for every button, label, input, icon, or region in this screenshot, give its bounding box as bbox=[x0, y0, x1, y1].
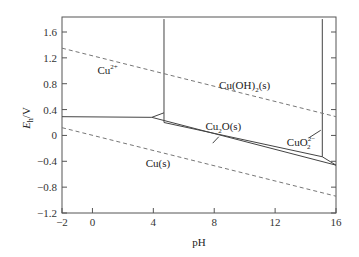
y-tick-label: 0 bbox=[52, 129, 58, 141]
x-tick-label: 8 bbox=[211, 216, 217, 228]
pourbaix-diagram: −20481216 −1.2−0.8−0.400.40.81.21.6 Cu2+… bbox=[0, 0, 359, 257]
y-tick-label: 0.8 bbox=[43, 78, 57, 90]
x-tick-label: 4 bbox=[151, 216, 157, 228]
region-label-cus: Cu(s) bbox=[146, 157, 171, 170]
y-axis-title-unit: /V bbox=[20, 107, 32, 118]
x-axis-ticks: −20481216 bbox=[56, 208, 342, 228]
region-label-cuo2: CuO2−2 bbox=[287, 135, 315, 151]
boundary-lines bbox=[62, 19, 336, 196]
x-tick-label: −2 bbox=[56, 216, 68, 228]
x-axis-title: pH bbox=[192, 236, 206, 248]
y-tick-label: −1.2 bbox=[37, 207, 57, 219]
x-tick-label: 16 bbox=[331, 216, 343, 228]
plot-frame bbox=[62, 17, 336, 213]
y-tick-label: 1.6 bbox=[43, 26, 57, 38]
y-tick-label: 0.4 bbox=[43, 104, 57, 116]
y-axis-title: Eh/V bbox=[20, 107, 35, 130]
cu2o-leader-line bbox=[213, 137, 219, 143]
series-line-0 bbox=[62, 117, 152, 118]
series-line-2 bbox=[152, 113, 164, 118]
series-line-7 bbox=[62, 48, 336, 117]
x-tick-label: 0 bbox=[90, 216, 96, 228]
x-tick-label: 12 bbox=[270, 216, 281, 228]
region-label-cu2plus: Cu2+ bbox=[98, 63, 118, 76]
y-tick-label: 1.2 bbox=[43, 52, 57, 64]
region-label-cuoh2: Cu(OH)2(s) bbox=[219, 79, 271, 94]
region-labels: Cu2+Cu(OH)2(s)Cu2O(s)CuO2−2Cu(s) bbox=[98, 63, 321, 170]
y-tick-label: −0.4 bbox=[37, 155, 57, 167]
plot-border bbox=[62, 17, 336, 213]
y-axis-ticks: −1.2−0.8−0.400.40.81.21.6 bbox=[37, 26, 336, 219]
y-tick-label: −0.8 bbox=[37, 181, 57, 193]
